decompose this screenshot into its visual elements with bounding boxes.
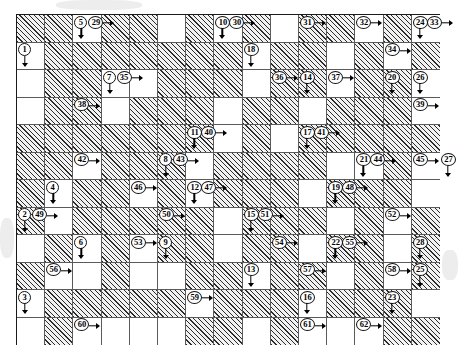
clue-number-52[interactable]: 52 [385,208,400,221]
block-cell [355,290,383,318]
clue-number-61[interactable]: 61 [300,318,315,331]
block-cell [130,15,158,43]
clue-number-59[interactable]: 59 [187,291,202,304]
answer-cell[interactable] [17,70,45,98]
answer-cell[interactable] [327,208,355,236]
clue-arrow-right-49 [47,212,59,220]
answer-cell[interactable] [130,318,158,346]
clue-number-14[interactable]: 14 [300,71,315,84]
clue-number-48[interactable]: 48 [342,181,357,194]
answer-cell[interactable] [299,235,327,263]
clue-number-25[interactable]: 25 [413,263,428,276]
clue-number-39[interactable]: 39 [413,98,428,111]
clue-number-30[interactable]: 30 [229,16,244,29]
answer-cell[interactable] [158,318,186,346]
clue-arrow-right-45 [428,157,440,165]
clue-number-29[interactable]: 29 [88,16,103,29]
block-cell [384,125,412,153]
crossword-grid[interactable]: 1529103031322433183473536143720263839114… [16,14,440,345]
clue-number-13[interactable]: 13 [244,263,259,276]
clue-number-31[interactable]: 31 [300,16,315,29]
clue-arrow-down-16 [303,303,311,315]
clue-number-51[interactable]: 51 [258,208,273,221]
answer-cell[interactable] [158,263,186,291]
clue-number-28[interactable]: 28 [413,236,428,249]
answer-cell[interactable] [327,263,355,291]
block-cell [243,153,271,181]
clue-number-1[interactable]: 1 [18,43,31,56]
answer-cell[interactable] [299,98,327,126]
clue-number-22[interactable]: 22 [328,236,343,249]
clue-number-19[interactable]: 19 [328,181,343,194]
block-cell [45,98,73,126]
clue-number-43[interactable]: 43 [173,153,188,166]
answer-cell[interactable] [299,180,327,208]
answer-cell[interactable] [327,153,355,181]
clue-number-57[interactable]: 57 [300,263,315,276]
answer-cell[interactable] [271,15,299,43]
answer-cell[interactable] [271,125,299,153]
clue-number-35[interactable]: 35 [117,71,132,84]
answer-cell[interactable] [327,43,355,71]
block-cell [45,235,73,263]
clue-number-16[interactable]: 16 [300,291,315,304]
clue-number-8[interactable]: 8 [159,153,172,166]
answer-cell[interactable] [384,235,412,263]
clue-arrow-down-17 [303,138,311,150]
clue-number-26[interactable]: 26 [413,71,428,84]
answer-cell[interactable] [130,263,158,291]
clue-number-34[interactable]: 34 [385,43,400,56]
clue-number-11[interactable]: 11 [187,126,202,139]
clue-number-41[interactable]: 41 [314,126,329,139]
clue-number-45[interactable]: 45 [413,153,428,166]
clue-number-46[interactable]: 46 [131,181,146,194]
answer-cell[interactable] [17,98,45,126]
clue-arrow-down-4 [49,193,57,205]
clue-number-54[interactable]: 54 [272,236,287,249]
clue-number-5[interactable]: 5 [74,16,87,29]
clue-number-12[interactable]: 12 [187,181,202,194]
clue-number-58[interactable]: 58 [385,263,400,276]
clue-number-17[interactable]: 17 [300,126,315,139]
answer-cell[interactable] [102,318,130,346]
clue-number-9[interactable]: 9 [159,236,172,249]
answer-cell[interactable] [412,290,440,318]
clue-number-23[interactable]: 23 [385,291,400,304]
answer-cell[interactable] [214,98,242,126]
clue-number-50[interactable]: 50 [159,208,174,221]
clue-number-24[interactable]: 24 [413,16,428,29]
answer-cell[interactable] [73,263,101,291]
clue-number-33[interactable]: 33 [427,16,442,29]
clue-number-36[interactable]: 36 [272,71,287,84]
clue-number-7[interactable]: 7 [103,71,116,84]
clue-number-2[interactable]: 2 [18,208,31,221]
clue-number-20[interactable]: 20 [385,71,400,84]
answer-cell[interactable] [17,318,45,346]
answer-cell[interactable] [214,208,242,236]
clue-number-4[interactable]: 4 [46,181,59,194]
answer-cell[interactable] [243,70,271,98]
clue-number-6[interactable]: 6 [74,236,87,249]
answer-cell[interactable] [327,318,355,346]
clue-number-15[interactable]: 15 [244,208,259,221]
clue-number-55[interactable]: 55 [342,236,357,249]
answer-cell[interactable] [412,180,440,208]
answer-cell[interactable] [243,318,271,346]
clue-number-53[interactable]: 53 [131,236,146,249]
clue-number-49[interactable]: 49 [32,208,47,221]
clue-number-27[interactable]: 27 [441,153,456,166]
answer-cell[interactable] [102,98,130,126]
crossword-grid-container[interactable]: 1529103031322433183473536143720263839114… [16,14,440,345]
clue-number-3[interactable]: 3 [18,291,31,304]
clue-number-37[interactable]: 37 [328,71,343,84]
block-cell [412,318,440,346]
clue-arrow-right-48 [357,184,369,192]
clue-number-47[interactable]: 47 [201,181,216,194]
answer-cell[interactable] [17,235,45,263]
answer-cell[interactable] [158,15,186,43]
answer-cell[interactable] [214,235,242,263]
clue-number-40[interactable]: 40 [201,126,216,139]
clue-number-32[interactable]: 32 [356,16,371,29]
clue-number-18[interactable]: 18 [244,43,259,56]
clue-number-10[interactable]: 10 [215,16,230,29]
